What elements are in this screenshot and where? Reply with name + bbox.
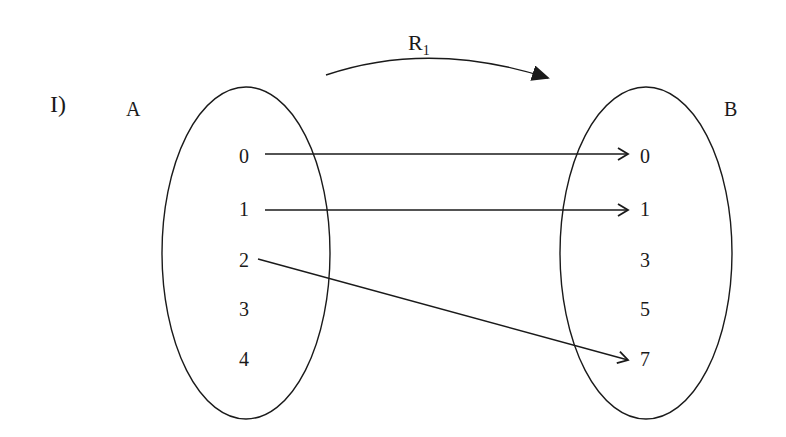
set-a-label: A bbox=[126, 98, 141, 120]
mapping-arrow-2-to-7 bbox=[258, 259, 628, 360]
set-a-element: 0 bbox=[239, 145, 249, 167]
set-a-elements: 0 1 2 3 4 bbox=[239, 145, 249, 370]
set-a-element: 3 bbox=[239, 298, 249, 320]
set-a-element: 2 bbox=[239, 249, 249, 271]
set-b-label: B bbox=[724, 98, 737, 120]
set-a-element: 4 bbox=[239, 348, 249, 370]
set-b-element: 0 bbox=[640, 145, 650, 167]
set-b-element: 3 bbox=[640, 249, 650, 271]
part-label: I) bbox=[50, 91, 66, 117]
set-b-element: 1 bbox=[640, 198, 650, 220]
relation-arrow bbox=[326, 58, 548, 78]
set-b-element: 7 bbox=[640, 348, 650, 370]
set-b-elements: 0 1 3 5 7 bbox=[640, 145, 650, 370]
relation-diagram: I) R1 A 0 1 2 3 4 B 0 1 3 5 7 bbox=[0, 0, 786, 437]
set-b-element: 5 bbox=[640, 298, 650, 320]
relation-label: R1 bbox=[408, 30, 430, 58]
set-a-element: 1 bbox=[239, 198, 249, 220]
